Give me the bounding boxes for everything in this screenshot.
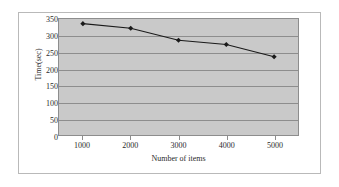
y-axis-tick-label: 50 — [50, 116, 58, 125]
data-point-marker — [176, 38, 181, 43]
y-axis-tick-label: 150 — [46, 82, 58, 91]
x-axis-tick-label: 4000 — [219, 141, 235, 150]
plot-area — [58, 18, 299, 136]
x-axis-tickmark — [82, 136, 83, 140]
data-series-line — [59, 19, 298, 135]
x-axis-tick-label: 3000 — [171, 141, 187, 150]
x-axis-tickmark — [227, 136, 228, 140]
data-point-marker — [128, 26, 133, 31]
x-axis-tick-label: 1000 — [74, 141, 90, 150]
x-axis-tickmark — [275, 136, 276, 140]
data-point-marker — [272, 54, 277, 59]
y-axis-tick-label: 350 — [46, 15, 58, 24]
x-axis-tick-label: 2000 — [122, 141, 138, 150]
chart-frame: Time(sec) 050100150200250300350 10002000… — [18, 12, 321, 174]
x-axis-tick-label: 5000 — [267, 141, 283, 150]
x-axis-tickmark — [179, 136, 180, 140]
x-axis-tickmark — [130, 136, 131, 140]
y-axis-tick-labels: 050100150200250300350 — [33, 18, 58, 136]
x-axis-tickmarks — [58, 136, 299, 140]
y-axis-tick-label: 300 — [46, 31, 58, 40]
y-axis-tick-label: 250 — [46, 48, 58, 57]
y-axis-tick-label: 200 — [46, 65, 58, 74]
y-axis-tick-label: 100 — [46, 99, 58, 108]
x-axis-tick-labels: 10002000300040005000 — [58, 141, 299, 153]
data-point-marker — [224, 42, 229, 47]
x-axis-title: Number of items — [58, 154, 299, 163]
data-point-marker — [80, 21, 85, 26]
